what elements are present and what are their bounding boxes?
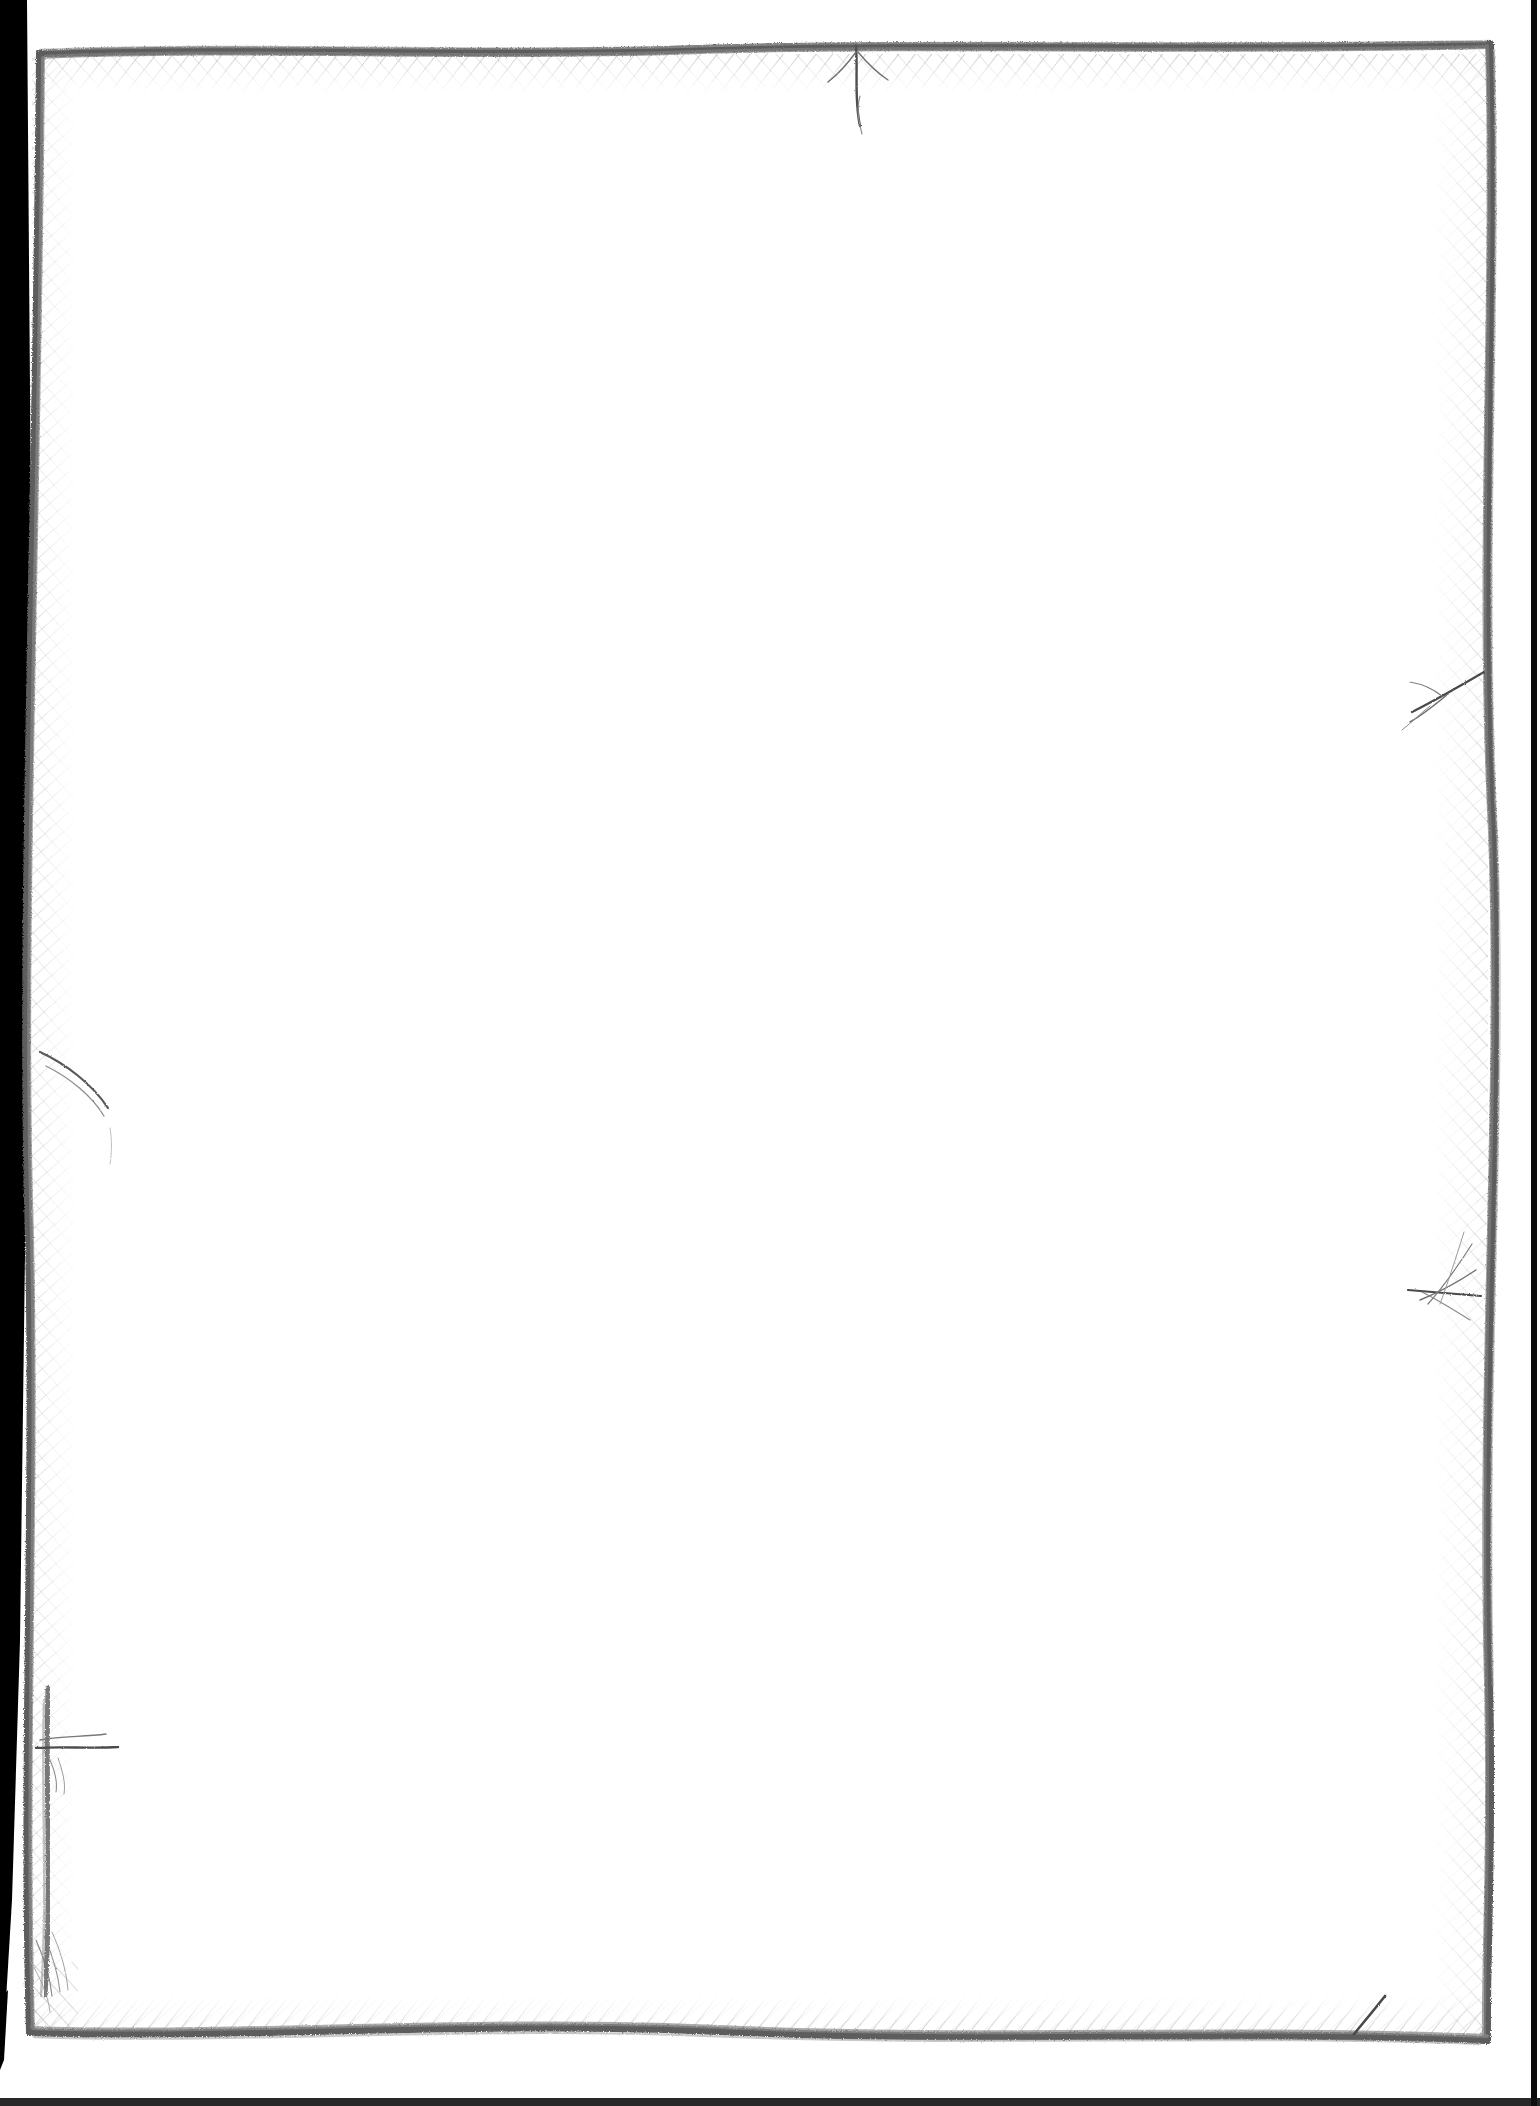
paper-background — [0, 0, 1540, 2106]
hatch-top — [38, 54, 1492, 94]
scanner-shadow-right — [1531, 0, 1537, 2106]
page-scan-canvas — [0, 0, 1540, 2106]
hatch-right — [1432, 50, 1488, 2030]
corner-hatch-bottom-left — [34, 1962, 78, 2028]
scanned-page — [0, 0, 1540, 2106]
scanner-shadow-bottom — [0, 2098, 1540, 2106]
